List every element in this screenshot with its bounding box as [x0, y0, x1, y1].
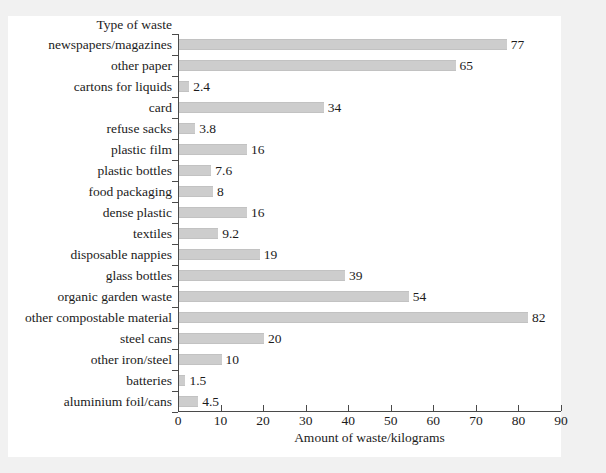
- x-axis-tick-label: 60: [413, 413, 453, 429]
- y-axis-tick: [172, 244, 178, 245]
- bar-value-label: 2.4: [193, 76, 210, 97]
- x-axis-title: Amount of waste/kilograms: [178, 430, 561, 446]
- bar-category-label: card: [0, 97, 172, 118]
- bar-value-label: 34: [328, 97, 342, 118]
- bar-row: other compostable material82: [0, 307, 606, 328]
- y-axis-tick: [172, 349, 178, 350]
- bar-value-label: 20: [268, 328, 282, 349]
- bar: [179, 123, 195, 134]
- y-axis-tick: [172, 55, 178, 56]
- bar-row: organic garden waste54: [0, 286, 606, 307]
- y-axis-tick: [172, 34, 178, 35]
- y-axis-line: [178, 34, 179, 412]
- bar: [179, 144, 247, 155]
- bar: [179, 81, 189, 92]
- y-axis-tick: [172, 76, 178, 77]
- bar: [179, 249, 260, 260]
- x-axis-tick-label: 90: [541, 413, 581, 429]
- x-axis-tick: [518, 405, 519, 411]
- bar-row: other iron/steel10: [0, 349, 606, 370]
- bar-value-label: 16: [251, 202, 265, 223]
- y-axis-tick: [172, 118, 178, 119]
- bar-category-label: food packaging: [0, 181, 172, 202]
- y-axis-tick: [172, 370, 178, 371]
- bar-category-label: dense plastic: [0, 202, 172, 223]
- bar-value-label: 10: [226, 349, 240, 370]
- bar: [179, 312, 528, 323]
- bar-row: disposable nappies19: [0, 244, 606, 265]
- bar-row: food packaging8: [0, 181, 606, 202]
- bar: [179, 291, 409, 302]
- x-axis-tick-label: 30: [286, 413, 326, 429]
- y-axis-tick: [172, 391, 178, 392]
- bar-value-label: 54: [413, 286, 427, 307]
- bar-row: textiles9.2: [0, 223, 606, 244]
- bar-value-label: 3.8: [199, 118, 216, 139]
- x-axis-tick: [433, 405, 434, 411]
- bar-value-label: 7.6: [215, 160, 232, 181]
- y-axis-tick: [172, 328, 178, 329]
- bar-row: newspapers/magazines77: [0, 34, 606, 55]
- bar: [179, 39, 507, 50]
- x-axis-tick-label: 10: [201, 413, 241, 429]
- bar-value-label: 19: [264, 244, 278, 265]
- x-axis-tick-label: 80: [498, 413, 538, 429]
- x-axis-tick-label: 50: [371, 413, 411, 429]
- bar-row: steel cans20: [0, 328, 606, 349]
- bar-row: refuse sacks3.8: [0, 118, 606, 139]
- y-axis-tick: [172, 286, 178, 287]
- bar: [179, 165, 211, 176]
- bar-value-label: 1.5: [189, 370, 206, 391]
- x-axis-tick-label: 70: [456, 413, 496, 429]
- x-axis-line: [178, 411, 561, 412]
- bar-row: plastic film16: [0, 139, 606, 160]
- bar-value-label: 4.5: [202, 391, 219, 412]
- bar-row: batteries1.5: [0, 370, 606, 391]
- bar-category-label: cartons for liquids: [0, 76, 172, 97]
- bar: [179, 60, 456, 71]
- bar-category-label: other paper: [0, 55, 172, 76]
- y-axis-title: Type of waste: [0, 17, 172, 33]
- bar: [179, 102, 324, 113]
- bar: [179, 207, 247, 218]
- bar-category-label: refuse sacks: [0, 118, 172, 139]
- x-axis-tick: [476, 405, 477, 411]
- y-axis-tick: [172, 160, 178, 161]
- bar-value-label: 65: [460, 55, 474, 76]
- x-axis-tick: [221, 405, 222, 411]
- bar-category-label: plastic bottles: [0, 160, 172, 181]
- y-axis-tick: [172, 223, 178, 224]
- bar: [179, 186, 213, 197]
- x-axis-tick: [306, 405, 307, 411]
- bar-category-label: disposable nappies: [0, 244, 172, 265]
- x-axis-tick: [348, 405, 349, 411]
- bar-row: glass bottles39: [0, 265, 606, 286]
- y-axis-tick: [172, 97, 178, 98]
- bar-category-label: steel cans: [0, 328, 172, 349]
- bar-value-label: 16: [251, 139, 265, 160]
- bar-category-label: textiles: [0, 223, 172, 244]
- x-axis-tick: [391, 405, 392, 411]
- bar-row: plastic bottles7.6: [0, 160, 606, 181]
- bar: [179, 333, 264, 344]
- bar-category-label: other iron/steel: [0, 349, 172, 370]
- chart-figure: Type of waste newspapers/magazines77othe…: [0, 0, 606, 473]
- bar-row: aluminium foil/cans4.5: [0, 391, 606, 412]
- bar-chart: Type of waste newspapers/magazines77othe…: [0, 0, 606, 473]
- bar-category-label: organic garden waste: [0, 286, 172, 307]
- bar-value-label: 82: [532, 307, 546, 328]
- bar-row: card34: [0, 97, 606, 118]
- x-axis-tick-label: 20: [243, 413, 283, 429]
- y-axis-tick: [172, 265, 178, 266]
- y-axis-tick: [172, 139, 178, 140]
- x-axis-tick: [178, 405, 179, 411]
- bar: [179, 396, 198, 407]
- bar-value-label: 39: [349, 265, 363, 286]
- bar-category-label: plastic film: [0, 139, 172, 160]
- bar: [179, 375, 185, 386]
- y-axis-tick: [172, 181, 178, 182]
- bar-value-label: 8: [217, 181, 224, 202]
- bar-row: cartons for liquids2.4: [0, 76, 606, 97]
- x-axis-tick: [263, 405, 264, 411]
- x-axis-tick: [561, 405, 562, 411]
